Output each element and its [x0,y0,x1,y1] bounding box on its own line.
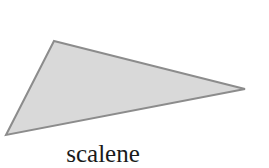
triangle-caption: scalene [0,140,206,168]
scalene-triangle [6,41,245,135]
